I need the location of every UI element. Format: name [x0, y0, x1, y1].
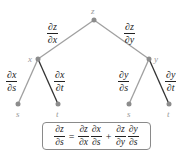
edge-label-dz-dy: ∂z ∂y	[124, 22, 135, 45]
denominator: ∂s	[55, 137, 63, 148]
denominator: ∂s	[129, 137, 137, 148]
denominator: ∂x	[79, 137, 88, 148]
node-label-t-left: t	[56, 110, 59, 119]
numerator: ∂z	[47, 22, 58, 34]
node-label-x: x	[28, 55, 32, 64]
node-s-right-dot	[127, 102, 132, 107]
denominator: ∂t	[56, 82, 64, 93]
node-s-left-dot	[16, 102, 21, 107]
numerator: ∂z	[124, 22, 135, 34]
edge-x-s	[18, 59, 38, 104]
edge-label-dz-dx: ∂z ∂x	[47, 22, 58, 45]
numerator: ∂z	[78, 125, 88, 137]
denominator: ∂s	[7, 82, 16, 93]
numerator: ∂y	[118, 70, 129, 82]
node-label-t-right: t	[167, 110, 170, 119]
edge-label-dx-ds: ∂x ∂s	[6, 70, 17, 93]
node-y-dot	[147, 57, 152, 62]
formula-lhs: ∂z ∂s	[54, 125, 64, 147]
node-t-right-dot	[167, 102, 172, 107]
chain-rule-formula-box: ∂z ∂s = ∂z ∂x ∂x ∂s + ∂z ∂y ∂y ∂s	[42, 122, 151, 150]
equals-sign: =	[69, 131, 75, 142]
node-label-s-right: s	[127, 110, 131, 119]
formula-term2a: ∂z ∂y	[115, 125, 125, 147]
denominator: ∂y	[116, 137, 125, 148]
formula-term1b: ∂x ∂s	[91, 125, 102, 147]
edge-label-dx-dt: ∂x ∂t	[54, 70, 65, 93]
denominator: ∂s	[119, 82, 128, 93]
formula-term2b: ∂y ∂s	[128, 125, 139, 147]
denominator: ∂y	[125, 34, 134, 45]
denominator: ∂s	[92, 137, 100, 148]
denominator: ∂x	[48, 34, 57, 45]
plus-sign: +	[106, 131, 112, 142]
node-z-dot	[92, 18, 97, 23]
numerator: ∂y	[128, 125, 139, 137]
numerator: ∂x	[6, 70, 17, 82]
numerator: ∂y	[165, 70, 176, 82]
node-label-z: z	[91, 7, 95, 16]
numerator: ∂x	[54, 70, 65, 82]
numerator: ∂z	[115, 125, 125, 137]
node-label-y: y	[154, 55, 158, 64]
numerator: ∂z	[54, 125, 64, 137]
node-x-dot	[36, 57, 41, 62]
edge-z-y	[94, 20, 149, 59]
edge-label-dy-ds: ∂y ∂s	[118, 70, 129, 93]
node-t-left-dot	[56, 102, 61, 107]
edge-y-s	[129, 59, 149, 104]
formula-term1a: ∂z ∂x	[78, 125, 88, 147]
edge-label-dy-dt: ∂y ∂t	[165, 70, 176, 93]
node-label-s-left: s	[16, 110, 20, 119]
numerator: ∂x	[91, 125, 102, 137]
denominator: ∂t	[167, 82, 175, 93]
